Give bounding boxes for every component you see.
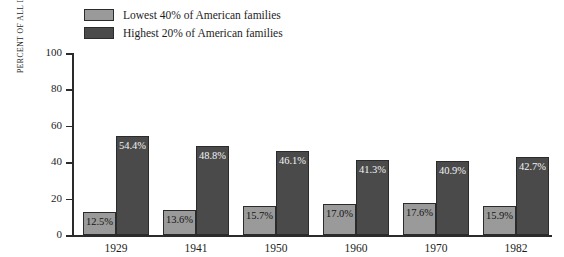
- bar: 15.7%: [243, 206, 276, 235]
- y-axis-tick: 100: [66, 53, 72, 55]
- bar: 15.9%: [483, 206, 516, 235]
- legend-swatch-lowest-40: [84, 9, 114, 21]
- legend-item-lowest-40: Lowest 40% of American families: [84, 6, 283, 24]
- bar-value-label: 48.8%: [197, 150, 228, 162]
- x-axis-line: [72, 235, 552, 237]
- y-axis-tick-label: 80: [51, 81, 62, 95]
- bar-value-label: 15.9%: [484, 210, 515, 222]
- chart-legend: Lowest 40% of American families Highest …: [84, 6, 283, 42]
- bar-chart-plot-area: PERCENT OF ALL INCOME RECEIVED 020406080…: [72, 53, 552, 235]
- bar-value-label: 12.5%: [84, 216, 115, 228]
- y-axis-tick: 80: [66, 89, 72, 91]
- bar-group: 15.9%42.7%: [483, 53, 549, 235]
- bar-value-label: 46.1%: [277, 155, 308, 167]
- bar-value-label: 54.4%: [117, 140, 148, 152]
- bar: 54.4%: [116, 136, 149, 235]
- legend-label-highest-20: Highest 20% of American families: [123, 27, 283, 39]
- x-axis-tick-label: 1982: [483, 241, 549, 255]
- y-axis-tick: 0: [66, 235, 72, 237]
- legend-swatch-highest-20: [84, 27, 114, 39]
- y-axis-tick-label: 100: [46, 45, 63, 59]
- bar-value-label: 17.6%: [404, 207, 435, 219]
- bar: 46.1%: [276, 151, 309, 235]
- y-axis-tick: 40: [66, 162, 72, 164]
- y-axis-tick: 60: [66, 126, 72, 128]
- bar-group: 15.7%46.1%: [243, 53, 309, 235]
- x-axis-tick-label: 1950: [243, 241, 309, 255]
- y-axis-tick-label: 40: [51, 154, 62, 168]
- y-axis-tick: 20: [66, 199, 72, 201]
- x-axis-tick-label: 1929: [83, 241, 149, 255]
- y-axis-tick-label: 20: [51, 191, 62, 205]
- legend-label-lowest-40: Lowest 40% of American families: [123, 9, 281, 21]
- bar: 41.3%: [356, 160, 389, 235]
- bar: 48.8%: [196, 146, 229, 235]
- bar-value-label: 40.9%: [437, 165, 468, 177]
- bar: 13.6%: [163, 210, 196, 235]
- x-axis-tick-label: 1970: [403, 241, 469, 255]
- bar-value-label: 42.7%: [517, 161, 548, 173]
- x-axis-tick-label: 1941: [163, 241, 229, 255]
- bar-value-label: 15.7%: [244, 210, 275, 222]
- bar-group: 13.6%48.8%: [163, 53, 229, 235]
- bar-group: 17.0%41.3%: [323, 53, 389, 235]
- bar-value-label: 13.6%: [164, 214, 195, 226]
- bar: 17.0%: [323, 204, 356, 235]
- bar: 17.6%: [403, 203, 436, 235]
- y-axis-title: PERCENT OF ALL INCOME RECEIVED: [16, 0, 25, 73]
- bar-group: 17.6%40.9%: [403, 53, 469, 235]
- legend-item-highest-20: Highest 20% of American families: [84, 24, 283, 42]
- bar: 42.7%: [516, 157, 549, 235]
- y-axis-tick-label: 60: [51, 118, 62, 132]
- bar: 12.5%: [83, 212, 116, 235]
- bar-value-label: 17.0%: [324, 208, 355, 220]
- x-axis-tick-label: 1960: [323, 241, 389, 255]
- bar: 40.9%: [436, 161, 469, 235]
- y-axis-tick-label: 0: [57, 227, 63, 241]
- y-axis-line: [72, 53, 74, 235]
- bar-value-label: 41.3%: [357, 164, 388, 176]
- bar-group: 12.5%54.4%: [83, 53, 149, 235]
